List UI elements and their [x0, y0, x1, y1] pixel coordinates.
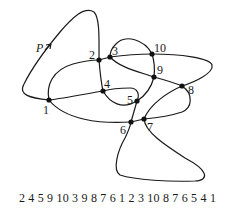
sequence-caption: 2 4 5 9 10 3 9 8 7 6 1 2 3 10 8 7 6 5 4 … — [0, 191, 235, 206]
node-label-8: 8 — [188, 83, 194, 97]
node-1 — [46, 97, 51, 102]
node-5 — [134, 98, 139, 103]
node-2 — [96, 57, 101, 62]
node-label-9: 9 — [157, 63, 163, 77]
start-label: P — [35, 41, 44, 55]
node-label-6: 6 — [120, 123, 126, 137]
node-9 — [151, 74, 156, 79]
node-7 — [141, 116, 146, 121]
node-label-5: 5 — [127, 93, 133, 107]
node-label-4: 4 — [104, 77, 110, 91]
closed-curve-diagram: P 1 2 3 4 5 6 7 8 9 10 — [0, 0, 235, 209]
node-label-1: 1 — [43, 103, 49, 117]
node-label-2: 2 — [89, 48, 95, 62]
node-6 — [128, 119, 133, 124]
node-label-10: 10 — [154, 41, 166, 55]
curve — [22, 10, 212, 181]
node-8 — [179, 83, 184, 88]
node-label-3: 3 — [112, 44, 118, 58]
direction-arrow-icon — [45, 44, 51, 50]
node-label-7: 7 — [147, 120, 153, 134]
